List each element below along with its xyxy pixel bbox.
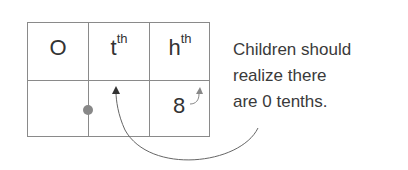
note-line: Children should [233,37,351,63]
note-line: realize there [233,63,351,89]
arrow-head-hundredths [196,87,203,94]
decimal-point-dot [83,105,93,115]
arrow-head-tenths [112,86,120,94]
annotation-text: Children should realize there are 0 tent… [233,37,351,115]
small-arrow [190,94,199,104]
note-line: are 0 tenths. [233,89,351,115]
